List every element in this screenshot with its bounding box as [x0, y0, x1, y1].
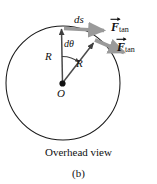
radius-label-slant: R [76, 58, 83, 69]
radius-label-vertical: R [45, 51, 52, 62]
center-label-o: O [57, 88, 65, 99]
force-vector-label-upper: F tan [111, 18, 129, 34]
force-symbol-f-upper: F [111, 21, 119, 33]
force-symbol-f-lower: F [117, 41, 125, 53]
force-subscript-upper: tan [119, 25, 129, 34]
figure-panel-label: (b) [0, 167, 157, 179]
force-arrow-tangential-upper [64, 29, 104, 31]
angle-label-dtheta: dθ [64, 39, 74, 49]
arc-length-label: ds [74, 14, 84, 25]
center-point-dot [59, 80, 65, 86]
figure-caption-overhead-view: Overhead view [0, 146, 157, 158]
physics-figure-panel-b: ds dθ R R O F tan F tan Overhead view (b… [0, 0, 157, 184]
force-subscript-lower: tan [125, 45, 135, 54]
force-vector-label-lower: F tan [117, 38, 135, 54]
